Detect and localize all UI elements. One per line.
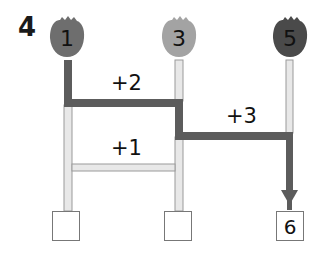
- answer-box-3[interactable]: 6: [276, 211, 304, 241]
- rail-right-upper: [286, 60, 293, 133]
- path-right-segment: [286, 132, 293, 194]
- bulb-label-5: 5: [275, 26, 305, 51]
- path-left-segment: [64, 60, 72, 105]
- answer-box-2[interactable]: [164, 211, 192, 241]
- rung-plus-2: [64, 99, 183, 107]
- rung-plus-3: [175, 132, 293, 140]
- rung-label-plus-3: +3: [226, 104, 257, 128]
- rung-label-plus-2: +2: [111, 71, 142, 95]
- rung-plus-1: [72, 164, 175, 171]
- rail-middle-upper: [175, 60, 183, 101]
- path-middle-segment: [175, 99, 183, 137]
- bulb-label-1: 1: [52, 26, 82, 51]
- rail-middle-lower: [175, 137, 183, 211]
- rung-label-plus-1: +1: [111, 136, 142, 160]
- answer-box-1[interactable]: [52, 211, 80, 241]
- rail-left-lower: [64, 105, 72, 211]
- bulb-label-3: 3: [164, 26, 194, 51]
